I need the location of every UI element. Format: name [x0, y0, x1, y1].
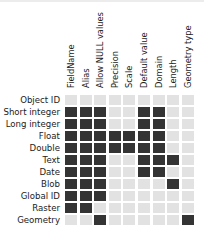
matrix-cell-unsupported — [153, 203, 165, 213]
matrix-cell-supported — [138, 167, 150, 177]
matrix-cell-unsupported — [182, 203, 194, 213]
column-header-label: Scale — [124, 66, 135, 88]
matrix-cell-supported — [138, 119, 150, 129]
matrix-cell-unsupported — [123, 215, 135, 225]
matrix-cell-supported — [109, 143, 121, 153]
row-label: Short integer — [0, 107, 60, 117]
row-label: Long integer — [0, 119, 60, 129]
matrix-cell-supported — [65, 119, 77, 129]
matrix-cell-unsupported — [109, 119, 121, 129]
column-header-label: Default value — [139, 32, 150, 88]
matrix-cell-unsupported — [123, 95, 135, 105]
column-header: FieldName — [65, 0, 79, 88]
matrix-cell-supported — [94, 215, 106, 225]
matrix-cell-supported — [138, 131, 150, 141]
row-label: Date — [0, 167, 60, 177]
column-header: Default value — [138, 0, 152, 88]
matrix-cell-unsupported — [167, 143, 179, 153]
column-header: Allow NULL values — [94, 0, 108, 88]
matrix-cell-unsupported — [182, 155, 194, 165]
matrix-cell-unsupported — [182, 167, 194, 177]
matrix-cell-unsupported — [94, 95, 106, 105]
matrix-cell-unsupported — [153, 95, 165, 105]
matrix-cell-supported — [80, 107, 92, 117]
column-header: Precision — [109, 0, 123, 88]
matrix-cell-supported — [80, 179, 92, 189]
matrix-cell-unsupported — [109, 167, 121, 177]
matrix-cell-supported — [123, 143, 135, 153]
matrix-cell-unsupported — [167, 191, 179, 201]
matrix-cell-unsupported — [153, 215, 165, 225]
matrix-cell-unsupported — [123, 191, 135, 201]
matrix-cell-unsupported — [167, 119, 179, 129]
matrix-cell-unsupported — [182, 179, 194, 189]
matrix-cell-supported — [167, 155, 179, 165]
matrix-cell-supported — [94, 155, 106, 165]
column-header-label: Allow NULL values — [95, 12, 106, 88]
matrix-cell-unsupported — [182, 143, 194, 153]
matrix-cell-unsupported — [138, 203, 150, 213]
matrix-cell-unsupported — [123, 203, 135, 213]
matrix-cell-supported — [80, 155, 92, 165]
matrix-cell-unsupported — [109, 215, 121, 225]
matrix-cell-supported — [65, 167, 77, 177]
matrix-cell-unsupported — [109, 155, 121, 165]
matrix-cell-unsupported — [167, 215, 179, 225]
matrix-cell-supported — [123, 131, 135, 141]
matrix-cell-supported — [94, 167, 106, 177]
matrix-cell-unsupported — [167, 131, 179, 141]
matrix-cell-unsupported — [167, 167, 179, 177]
matrix-cell-supported — [153, 131, 165, 141]
matrix-cell-supported — [65, 179, 77, 189]
matrix-cell-unsupported — [153, 191, 165, 201]
matrix-cell-supported — [138, 155, 150, 165]
column-header: Length — [167, 0, 181, 88]
matrix-cell-supported — [80, 131, 92, 141]
matrix-cell-supported — [65, 143, 77, 153]
matrix-cell-unsupported — [182, 131, 194, 141]
matrix-cell-supported — [153, 155, 165, 165]
matrix-cell-supported — [153, 167, 165, 177]
matrix-cell-unsupported — [65, 95, 77, 105]
matrix-cell-unsupported — [182, 95, 194, 105]
matrix-cell-unsupported — [138, 95, 150, 105]
matrix-cell-supported — [65, 191, 77, 201]
matrix-cell-supported — [182, 215, 194, 225]
column-header-label: Precision — [110, 51, 121, 88]
row-label: Blob — [0, 179, 60, 189]
matrix-cell-supported — [94, 131, 106, 141]
matrix-cell-unsupported — [109, 95, 121, 105]
column-header-label: Alias — [81, 68, 92, 88]
matrix-cell-supported — [80, 143, 92, 153]
matrix-cell-supported — [153, 119, 165, 129]
row-label: Object ID — [0, 95, 60, 105]
column-header-label: Length — [168, 59, 179, 88]
matrix-cell-unsupported — [182, 119, 194, 129]
row-label: Double — [0, 143, 60, 153]
matrix-cell-unsupported — [123, 155, 135, 165]
column-header: Domain — [153, 0, 167, 88]
column-header: Scale — [123, 0, 137, 88]
column-header: Geometry type — [182, 0, 196, 88]
matrix-cell-unsupported — [138, 179, 150, 189]
matrix-cell-unsupported — [167, 95, 179, 105]
matrix-cell-supported — [153, 143, 165, 153]
matrix-cell-supported — [94, 191, 106, 201]
row-label: Geometry — [0, 215, 60, 225]
matrix-cell-unsupported — [138, 191, 150, 201]
matrix-cell-supported — [109, 131, 121, 141]
matrix-cell-unsupported — [123, 179, 135, 189]
column-header-label: Domain — [154, 56, 165, 88]
matrix-cell-supported — [167, 179, 179, 189]
matrix-cell-unsupported — [123, 107, 135, 117]
matrix-cell-unsupported — [80, 95, 92, 105]
matrix-cell-supported — [138, 143, 150, 153]
matrix-cell-supported — [80, 167, 92, 177]
matrix-cell-unsupported — [109, 191, 121, 201]
matrix-cell-unsupported — [123, 167, 135, 177]
matrix-cell-unsupported — [138, 215, 150, 225]
matrix-cell-supported — [65, 203, 77, 213]
matrix-cell-unsupported — [167, 107, 179, 117]
matrix-cell-supported — [65, 131, 77, 141]
matrix-cell-supported — [80, 119, 92, 129]
